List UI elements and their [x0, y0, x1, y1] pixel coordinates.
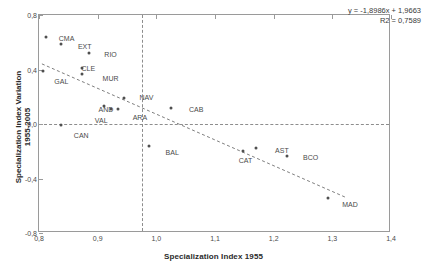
y-axis-title-line1: Specialization Index Variation [14, 71, 23, 183]
data-point-label: CLE [81, 64, 95, 71]
data-point-label: NAV [139, 94, 153, 101]
data-point-label: RIO [104, 50, 116, 57]
data-point [41, 69, 44, 72]
regression-r2: R2 = 0,7589 [348, 16, 421, 26]
data-point [327, 196, 330, 199]
x-axis-tick-mark [274, 15, 275, 19]
x-axis-tick-label: 1,0 [151, 235, 161, 242]
plot-inner: 0,80,40,0-0,4-0,80,80,91,01,11,21,31,4CM… [39, 15, 389, 231]
data-point-label: CAB [189, 105, 203, 112]
data-point [45, 36, 48, 39]
data-point [81, 72, 84, 75]
x-axis-tick-label: 0,8 [34, 235, 44, 242]
data-point [109, 108, 112, 111]
data-point [87, 52, 90, 55]
data-point-label: CAT [239, 156, 252, 163]
data-point [170, 107, 173, 110]
scatter-chart-figure: 0,80,40,0-0,4-0,80,80,91,01,11,21,31,4CM… [0, 0, 427, 274]
y-axis-tick-mark [39, 179, 43, 180]
data-point-label: AST [275, 146, 289, 153]
data-point-label: BAL [166, 149, 179, 156]
data-point-label: VAL [95, 117, 108, 124]
data-point-label: CAN [74, 131, 89, 138]
regression-annotation: y = -1,8986x + 1,9663 R2 = 0,7589 [348, 6, 421, 26]
data-point [123, 97, 126, 100]
data-point [59, 42, 62, 45]
data-point-label: MAD [342, 201, 358, 208]
x-axis-tick-label: 0,9 [93, 235, 103, 242]
reference-line-horizontal [39, 124, 389, 125]
x-axis-tick-mark [215, 15, 216, 19]
data-point [60, 123, 63, 126]
x-axis-tick-mark [156, 15, 157, 19]
data-point [117, 108, 120, 111]
x-axis-tick-label: 1,4 [386, 235, 396, 242]
y-axis-tick-label: 0,8 [27, 12, 37, 19]
x-axis-title: Specialization Index 1955 [0, 252, 427, 261]
data-point-label: EXT [78, 43, 92, 50]
data-point-label: GAL [54, 77, 68, 84]
reference-line-vertical [142, 15, 143, 231]
x-axis-tick-mark [39, 15, 40, 19]
x-axis-tick-label: 1,2 [269, 235, 279, 242]
y-axis-tick-mark [39, 233, 43, 234]
data-point [255, 147, 258, 150]
data-point-label: BCO [303, 154, 318, 161]
x-axis-tick-mark [98, 15, 99, 19]
data-point [148, 145, 151, 148]
data-point-label: ARA [133, 114, 147, 121]
data-point [285, 155, 288, 158]
y-axis-title-line2: 1955-2005 [23, 42, 32, 212]
x-axis-tick-label: 1,3 [327, 235, 337, 242]
plot-area: 0,80,40,0-0,4-0,80,80,91,01,11,21,31,4CM… [38, 14, 390, 232]
regression-equation: y = -1,8986x + 1,9663 [348, 6, 421, 16]
y-axis-title: Specialization Index Variation 1955-2005 [14, 42, 32, 212]
data-point-label: MUR [103, 74, 119, 81]
data-point [242, 149, 245, 152]
x-axis-tick-mark [332, 15, 333, 19]
x-axis-tick-label: 1,1 [210, 235, 220, 242]
y-axis-tick-mark [39, 124, 43, 125]
data-point-label: CMA [59, 34, 75, 41]
